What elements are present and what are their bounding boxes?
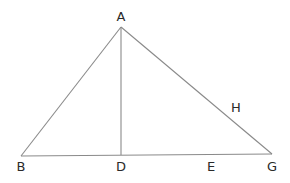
label-b: B — [17, 159, 26, 174]
label-g: G — [267, 159, 277, 174]
label-h: H — [231, 100, 241, 115]
segment-ag — [121, 27, 272, 154]
triangle-diagram: A B D E G H — [0, 0, 290, 183]
segment-ab — [21, 27, 121, 156]
segment-bg — [21, 154, 272, 156]
label-e: E — [207, 159, 215, 174]
label-a: A — [117, 9, 126, 24]
label-d: D — [116, 159, 126, 174]
